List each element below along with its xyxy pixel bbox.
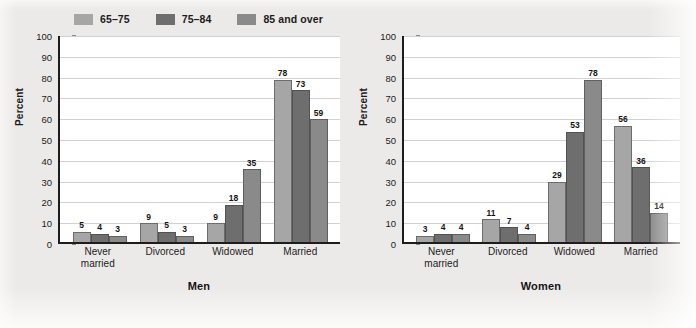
plot-area: 3441174295378563614 [402, 36, 680, 244]
y-axis-tick-label: 100 [36, 31, 52, 42]
y-axis-tick-label: 80 [385, 72, 396, 83]
category-label-line: married [64, 258, 132, 270]
bar [207, 223, 225, 242]
category-label-line: Married [267, 246, 335, 258]
y-axis-label: Percent [358, 88, 369, 126]
bar-slot: 35 [243, 36, 261, 242]
category-label: Widowed [541, 246, 608, 269]
category-labels: NevermarriedDivorcedWidowedMarried [402, 246, 680, 269]
bar [176, 236, 194, 242]
bar-value-label: 7 [507, 216, 512, 226]
panel-title: Women [402, 280, 680, 292]
y-axis-ticks: 1009080706050403020100 [26, 36, 52, 244]
bar [584, 80, 602, 242]
bar-slot: 4 [452, 36, 470, 242]
bar [274, 80, 292, 242]
y-axis-tick-label: 60 [41, 114, 52, 125]
legend-label: 85 and over [263, 13, 322, 25]
bar-slot: 3 [109, 36, 127, 242]
bar [500, 227, 518, 242]
bar-slot: 4 [434, 36, 452, 242]
y-axis-tick-label: 90 [385, 51, 396, 62]
bar-value-label: 3 [115, 224, 120, 234]
bar-value-label: 14 [654, 201, 663, 211]
category-label: Married [608, 246, 675, 269]
bar [292, 90, 310, 242]
bar-value-label: 5 [164, 220, 169, 230]
legend-item: 65–75 [74, 13, 130, 25]
bar-value-label: 35 [247, 158, 256, 168]
bar-value-label: 4 [97, 222, 102, 232]
category-label: Nevermarried [408, 246, 475, 269]
y-axis-tick-label: 30 [385, 176, 396, 187]
bar [632, 167, 650, 242]
category-label-line: Divorced [475, 246, 542, 258]
legend-swatch-icon [74, 14, 93, 25]
chart-panel-men: Percent 1009080706050403020100 543953918… [8, 30, 348, 302]
bar [548, 182, 566, 242]
bar [91, 234, 109, 242]
bar-slot: 78 [584, 36, 602, 242]
chart-page: 65–7575–8485 and over Percent 1009080706… [0, 0, 696, 328]
bar-value-label: 11 [487, 208, 496, 218]
chart-legend: 65–7575–8485 and over [74, 13, 323, 25]
bar-slot: 18 [225, 36, 243, 242]
bar-group: 787359 [267, 36, 334, 242]
panel-title: Men [58, 280, 340, 292]
bar-slot: 78 [274, 36, 292, 242]
y-axis-label: Percent [14, 88, 25, 126]
legend-item: 75–84 [156, 13, 212, 25]
bar [140, 223, 158, 242]
bar-group: 563614 [608, 36, 674, 242]
bar [310, 119, 328, 242]
bar-group: 543 [66, 36, 133, 242]
bar-value-label: 78 [588, 68, 597, 78]
bar-slot: 9 [207, 36, 225, 242]
category-label-line: Divorced [132, 246, 200, 258]
bar [434, 234, 452, 242]
panel-inner: Percent 1009080706050403020100 543953918… [8, 30, 348, 302]
y-axis-tick-label: 30 [41, 176, 52, 187]
y-axis-tick-label: 20 [385, 197, 396, 208]
bar-value-label: 5 [79, 220, 84, 230]
bar-slot: 9 [140, 36, 158, 242]
bar-value-label: 3 [182, 224, 187, 234]
bar-value-label: 78 [278, 68, 287, 78]
bar-group: 295378 [542, 36, 608, 242]
category-label-line: Never [408, 246, 475, 258]
bar-value-label: 4 [441, 222, 446, 232]
y-axis-tick-label: 80 [41, 72, 52, 83]
panel-inner: Percent 1009080706050403020100 344117429… [352, 30, 688, 302]
y-axis-tick-label: 100 [380, 31, 396, 42]
legend-swatch-icon [237, 14, 256, 25]
legend-item: 85 and over [237, 13, 322, 25]
category-label: Divorced [475, 246, 542, 269]
bar-value-label: 56 [618, 114, 627, 124]
bar-group: 1174 [476, 36, 542, 242]
bar [73, 232, 91, 242]
category-label-line: Married [608, 246, 675, 258]
category-label-line: Widowed [199, 246, 267, 258]
bar-value-label: 4 [525, 222, 530, 232]
bar [566, 132, 584, 242]
bar-slot: 56 [614, 36, 632, 242]
category-label: Nevermarried [64, 246, 132, 269]
bar [243, 169, 261, 242]
category-label-line: Never [64, 246, 132, 258]
bar-value-label: 9 [213, 212, 218, 222]
y-axis-tick-label: 0 [47, 239, 52, 250]
bar-slot: 36 [632, 36, 650, 242]
legend-swatch-icon [156, 14, 175, 25]
y-axis-tick-label: 20 [41, 197, 52, 208]
bar-value-label: 29 [552, 170, 561, 180]
bar-value-label: 53 [570, 120, 579, 130]
category-label: Married [267, 246, 335, 269]
bar-slot: 5 [73, 36, 91, 242]
y-axis-tick-label: 50 [41, 135, 52, 146]
bar [109, 236, 127, 242]
bar-value-label: 36 [636, 156, 645, 166]
y-axis-ticks: 1009080706050403020100 [370, 36, 396, 244]
bar-value-label: 59 [314, 108, 323, 118]
bar-value-label: 9 [146, 212, 151, 222]
bar-value-label: 73 [296, 79, 305, 89]
